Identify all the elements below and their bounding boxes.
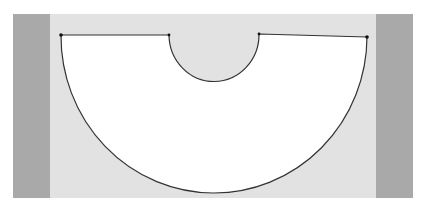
- diagram-canvas: [0, 0, 426, 220]
- half-ring-shape: [0, 0, 426, 220]
- half-ring-outline: [61, 34, 367, 193]
- vertex-marker-outer-left: [59, 33, 63, 37]
- vertex-marker-inner-right: [258, 33, 261, 36]
- vertex-marker-outer-right: [365, 35, 369, 39]
- vertex-marker-inner-left: [168, 34, 171, 37]
